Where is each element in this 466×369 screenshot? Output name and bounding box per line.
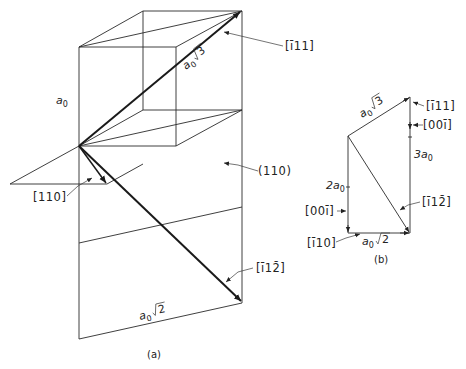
body-diagonal-length-label: a0 3: [179, 43, 212, 74]
svg-text:a0: a0: [357, 103, 375, 122]
leader-110: [67, 178, 92, 196]
svg-text:2: 2: [382, 233, 389, 246]
label-dir-112: [ī12̄]: [256, 261, 285, 275]
label-b-111: [ī11]: [426, 99, 455, 113]
label-b-3a0: 3a0: [414, 148, 433, 163]
leader-112: [226, 268, 253, 282]
label-plane-110: (110): [258, 164, 291, 178]
label-b-112: [ī12̄]: [422, 195, 451, 209]
unit-cube: [79, 11, 242, 339]
svg-text:a0: a0: [138, 308, 153, 325]
crystal-directions-diagram: a0 a0 3 [ī11] (110) [110] [ī12̄] a0 2 (a…: [0, 0, 466, 369]
label-b-001-left: [00ī]: [305, 204, 334, 218]
leader-b-110: [336, 234, 360, 242]
caption-a: (a): [147, 349, 161, 360]
leader-111: [224, 32, 283, 46]
vector-b-112: [348, 136, 409, 232]
b-bottom-length-label: a0 2: [362, 233, 390, 250]
vector-110: [79, 146, 106, 183]
plane-110: [10, 146, 242, 339]
label-b-110: [ī10]: [307, 236, 336, 250]
svg-text:2: 2: [157, 302, 167, 316]
figure-a: a0 a0 3 [ī11] (110) [110] [ī12̄] a0 2 (a…: [10, 11, 314, 360]
leader-b-111: [413, 102, 424, 106]
label-dir-110: [110]: [33, 190, 66, 204]
svg-text:a0: a0: [362, 235, 374, 250]
label-b-001-top: [00ī]: [423, 118, 452, 132]
caption-b: (b): [374, 254, 388, 265]
vector-112: [79, 146, 241, 301]
vector-111: [79, 12, 240, 146]
svg-text:a0: a0: [180, 55, 199, 74]
figure-b: a0 3 [ī11] [00ī] 3a0 2a0 [00ī] [ī12̄] [ī…: [305, 93, 455, 265]
face-diagonal-length-label: a0 2: [137, 302, 168, 325]
edge-length-label: a0: [56, 94, 68, 109]
leader-plane-110: [224, 163, 258, 171]
label-b-2a0: 2a0: [326, 179, 345, 194]
label-dir-111: [ī11]: [285, 39, 314, 53]
b-top-length-label: a0 3: [356, 93, 389, 122]
